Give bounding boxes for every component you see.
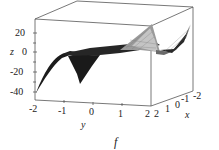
figure-caption: f — [114, 135, 117, 150]
y-tick-neg1: -1 — [58, 106, 66, 116]
y-tick-neg2: -2 — [29, 104, 37, 114]
y-axis-label: y — [81, 120, 85, 130]
x-tick-2: 2 — [154, 109, 159, 119]
x-tick-neg2: -2 — [193, 91, 201, 101]
surface-mesh — [36, 24, 191, 93]
x-axis-label: x — [185, 110, 189, 120]
y-tick-1: 1 — [118, 109, 123, 119]
z-axis-label: z — [10, 47, 14, 57]
surface-plot — [0, 0, 219, 150]
z-tick-20: 20 — [15, 28, 25, 38]
z-tick-neg40: -40 — [10, 87, 23, 97]
y-tick-2: 2 — [145, 109, 150, 119]
y-tick-0: 0 — [89, 107, 94, 117]
z-tick-neg20: -20 — [10, 67, 23, 77]
z-tick-0: 0 — [22, 47, 27, 57]
x-tick-0: 0 — [175, 100, 180, 110]
x-tick-neg1: -1 — [181, 94, 189, 104]
x-tick-1: 1 — [165, 104, 170, 114]
